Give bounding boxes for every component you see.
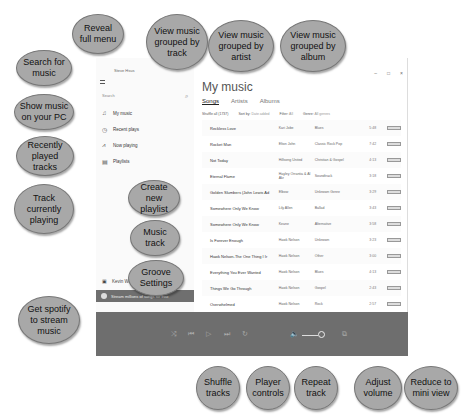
callout-reveal-menu: Reveal full menu [72, 14, 124, 54]
sidebar-item-label: Recent plays [113, 127, 139, 132]
search-placeholder: Search [102, 93, 115, 98]
table-row[interactable]: OverwhelmedHawk NelsonRock2:57 [202, 296, 401, 312]
track-badge [387, 302, 402, 306]
track-artist: Hillsong United [279, 158, 315, 162]
callout-groove-settings: Groove Settings [128, 260, 184, 296]
table-row[interactable]: Rocket ManElton JohnClassic Rock Pop7:42 [202, 136, 401, 152]
track-genre: Rock [315, 302, 370, 306]
track-duration: 4:13 [369, 158, 386, 162]
filter-dropdown[interactable]: Filter: All [280, 112, 293, 116]
minimize-button[interactable]: – [374, 70, 377, 76]
track-duration: 3:58 [369, 222, 386, 226]
sidebar-item-now-playing[interactable]: ⩘ Now playing [102, 142, 138, 149]
track-title: Somewhere Only We Know [202, 206, 279, 211]
track-artist: Hayley Orrantia & Al Akr [279, 172, 315, 180]
track-genre: Unknown Genre [315, 190, 370, 194]
track-title: Rocket Man [202, 142, 279, 147]
track-title: Overwhelmed [202, 302, 279, 307]
callout-player: Player controls [246, 366, 290, 410]
callout-playing: Track currently playing [14, 184, 74, 234]
user-icon: ▣ [102, 279, 107, 284]
volume-slider-thumb[interactable] [318, 331, 325, 338]
mini-view-icon[interactable]: ⧉ [342, 330, 347, 338]
sidebar-item-playlists[interactable]: ▤ Playlists [102, 158, 130, 165]
track-list: Reckless LoveKari JobeBlues5:48Rocket Ma… [202, 120, 401, 328]
callout-repeat: Repeat track [294, 366, 338, 410]
genre-dropdown[interactable]: Genre: All genres [303, 112, 330, 116]
track-title: Reckless Love [202, 126, 279, 131]
hamburger-menu-icon[interactable] [100, 80, 105, 84]
track-artist: Elton John [279, 142, 315, 146]
track-duration: 3:00 [369, 254, 386, 258]
track-duration: 5:48 [369, 126, 386, 130]
track-artist: Hawk Nelson [279, 302, 315, 306]
track-artist: Keane [279, 222, 315, 226]
callout-music-track: Music track [130, 220, 180, 256]
sidebar-item-label: My music [113, 111, 132, 116]
tab-albums[interactable]: Albums [260, 98, 280, 105]
maximize-button[interactable]: □ [387, 70, 390, 76]
track-artist: Hawk Nelson [279, 238, 315, 242]
track-title: Things We Go Through [202, 286, 279, 291]
sort-dropdown[interactable]: Sort by: Date added [238, 112, 269, 116]
track-genre: Blues [315, 270, 370, 274]
volume-slider[interactable] [302, 335, 318, 336]
track-duration: 4:13 [369, 270, 386, 274]
close-button[interactable]: × [400, 70, 403, 76]
volume-icon[interactable]: 🔈 [290, 330, 299, 338]
callout-by-artist: View music grouped by artist [208, 20, 274, 72]
table-row[interactable]: Reckless LoveKari JobeBlues5:48 [202, 120, 401, 136]
track-badge [387, 158, 402, 162]
track-genre: Unknown [315, 238, 370, 242]
main-content: – □ × My music Songs Artists Albums Shuf… [194, 58, 407, 312]
callout-shuffle: Shuffle tracks [196, 366, 240, 410]
track-title: Hawk Nelson-The One Thing I Ir [202, 254, 279, 259]
callout-volume: Adjust volume [354, 366, 402, 410]
shuffle-icon[interactable]: ⤨ [171, 330, 177, 338]
tab-songs[interactable]: Songs [202, 98, 219, 105]
page-title: My music [202, 80, 253, 94]
track-genre: Blues [315, 126, 370, 130]
track-title: Not Today [202, 158, 279, 163]
track-badge [387, 174, 402, 178]
callout-by-album: View music grouped by album [280, 20, 346, 72]
previous-icon[interactable]: ⏮ [188, 330, 194, 338]
track-duration: 7:42 [369, 142, 386, 146]
sidebar-item-recent-plays[interactable]: ◷ Recent plays [102, 126, 139, 133]
next-icon[interactable]: ⏭ [224, 330, 230, 338]
search-input[interactable]: Search ⌕ [102, 93, 188, 103]
track-badge [387, 286, 402, 290]
table-row[interactable]: Not TodayHillsong UnitedChristian & Gosp… [202, 152, 401, 168]
user-name-top: Steve Hsus [114, 68, 134, 73]
repeat-icon[interactable]: ↻ [242, 330, 248, 338]
table-row[interactable]: Everything You Ever WantedHawk NelsonBlu… [202, 264, 401, 280]
track-badge [387, 190, 402, 194]
track-genre: Alternative [315, 222, 370, 226]
tab-artists[interactable]: Artists [231, 98, 248, 105]
track-badge [387, 238, 402, 242]
table-row[interactable]: Somewhere Only We KnowLily AllenBallad3:… [202, 200, 401, 216]
shuffle-all-button[interactable]: Shuffle all (1737) [202, 112, 228, 116]
sidebar-item-label: Playlists [113, 159, 130, 164]
sidebar-item-my-music[interactable]: ♫ My music [102, 110, 132, 116]
track-duration: 3:23 [369, 238, 386, 242]
sidebar-item-label: Now playing [113, 143, 138, 148]
spotify-icon [101, 293, 107, 299]
music-note-icon: ♫ [102, 110, 108, 116]
track-title: Everything You Ever Wanted [202, 270, 279, 275]
callout-mini: Reduce to mini view [404, 366, 458, 410]
track-genre: Soundtrack [315, 174, 370, 178]
table-row[interactable]: Somewhere Only We KnowKeaneAlternative3:… [202, 216, 401, 232]
table-row[interactable]: Golden Slumbers (John Lewis AdElbowUnkno… [202, 184, 401, 200]
play-icon[interactable]: ▷ [206, 330, 211, 338]
table-row[interactable]: Hawk Nelson-The One Thing I IrHawk Nelso… [202, 248, 401, 264]
table-row[interactable]: Is Forever EnoughHawk NelsonUnknown3:23 [202, 232, 401, 248]
track-duration: 3:43 [369, 206, 386, 210]
table-row[interactable]: Things We Go ThroughHawk NelsonGospel2:4… [202, 280, 401, 296]
search-icon[interactable]: ⌕ [185, 93, 188, 100]
track-duration: 2:57 [369, 302, 386, 306]
playlist-icon: ▤ [102, 158, 108, 165]
track-title: Is Forever Enough [202, 238, 279, 243]
table-row[interactable]: Eternal FlameHayley Orrantia & Al AkrSou… [202, 168, 401, 184]
track-artist: Hawk Nelson [279, 270, 315, 274]
